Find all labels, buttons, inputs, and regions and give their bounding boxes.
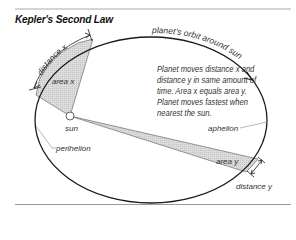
perihelion-label: perihelion [55,144,91,153]
aphelion-leader [240,122,267,128]
area-y-label: area y [216,157,239,166]
sun-label: sun [65,124,78,133]
distance-y-label: distance y [236,182,273,191]
area-x-label: area x [52,77,75,86]
orbit-label: planet's orbit around sun [151,25,245,61]
description-text: Planet moves distance x and distance y i… [157,64,257,119]
bottom-rule [15,204,291,205]
aphelion-label: aphelion [208,124,239,133]
perihelion-leader [36,126,56,148]
sun-icon [66,112,74,120]
